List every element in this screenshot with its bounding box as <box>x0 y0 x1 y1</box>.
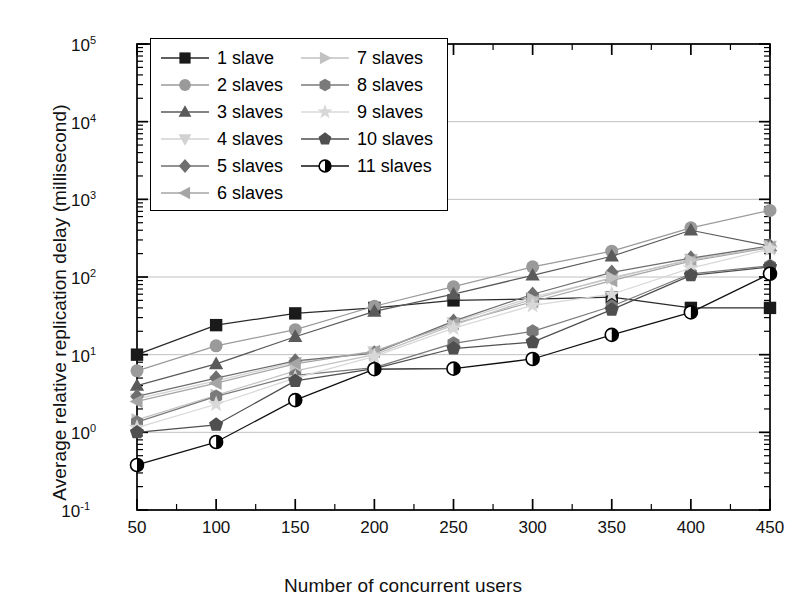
legend-marker-triangle-up-icon <box>159 101 211 123</box>
marker-square <box>179 52 190 63</box>
marker-circle-half <box>210 436 223 449</box>
legend-sample <box>159 182 211 204</box>
legend-item-2-slaves[interactable]: 2 slaves <box>159 72 283 98</box>
marker-circle-half <box>526 352 539 365</box>
marker-circle-half <box>368 363 381 376</box>
legend-item-6-slaves[interactable]: 6 slaves <box>159 180 283 206</box>
y-axis-title: Average relative replication delay (mill… <box>47 93 72 513</box>
legend-marker-triangle-right-icon <box>299 47 351 69</box>
marker-triangle-right <box>320 52 332 64</box>
legend-sample <box>159 128 211 150</box>
legend-marker-star-icon <box>299 101 351 123</box>
x-axis-title: Number of concurrent users <box>0 575 806 597</box>
marker-circle <box>763 204 776 217</box>
legend-sample <box>159 74 211 96</box>
marker-triangle-up <box>179 105 192 116</box>
legend-marker-pentagon-icon <box>299 128 351 150</box>
marker-square <box>131 348 143 360</box>
marker-hexagon <box>320 79 331 92</box>
marker-circle-half <box>130 458 143 471</box>
legend-item-9-slaves[interactable]: 9 slaves <box>299 99 423 125</box>
x-tick-label: 250 <box>424 518 484 538</box>
x-tick-label: 200 <box>344 518 404 538</box>
legend-item-3-slaves[interactable]: 3 slaves <box>159 99 283 125</box>
x-tick-label: 450 <box>740 518 800 538</box>
marker-pentagon <box>526 335 540 348</box>
x-tick-label: 100 <box>186 518 246 538</box>
legend-label: 4 slaves <box>211 129 283 150</box>
marker-star <box>318 104 333 118</box>
x-tick-label: 50 <box>107 518 167 538</box>
legend-label: 6 slaves <box>211 183 283 204</box>
legend-item-10-slaves[interactable]: 10 slaves <box>299 126 433 152</box>
legend-label: 10 slaves <box>351 129 433 150</box>
legend-marker-triangle-down-icon <box>159 128 211 150</box>
legend-sample <box>159 47 211 69</box>
marker-circle <box>130 364 143 377</box>
legend-marker-circle-half-icon <box>299 155 351 177</box>
x-tick-label: 400 <box>661 518 721 538</box>
legend-label: 11 slaves <box>351 156 432 177</box>
legend-label: 2 slaves <box>211 75 283 96</box>
marker-pentagon <box>209 417 223 430</box>
marker-triangle-left <box>178 187 190 199</box>
marker-circle <box>210 339 223 352</box>
marker-circle-half <box>447 362 460 375</box>
x-tick-label: 300 <box>503 518 563 538</box>
legend-sample <box>299 47 351 69</box>
marker-square <box>764 302 776 314</box>
marker-circle-half <box>684 306 697 319</box>
marker-circle-half <box>289 394 302 407</box>
legend-marker-circle-icon <box>159 74 211 96</box>
legend-sample <box>159 101 211 123</box>
marker-diamond <box>179 159 191 173</box>
legend-marker-triangle-left-icon <box>159 182 211 204</box>
x-tick-label: 350 <box>582 518 642 538</box>
legend-item-7-slaves[interactable]: 7 slaves <box>299 45 423 71</box>
legend-sample <box>299 101 351 123</box>
legend-marker-hexagon-icon <box>299 74 351 96</box>
legend-item-1-slave[interactable]: 1 slave <box>159 45 274 71</box>
legend-item-11-slaves[interactable]: 11 slaves <box>299 153 432 179</box>
legend-label: 3 slaves <box>211 102 283 123</box>
marker-circle-half <box>319 160 331 172</box>
marker-triangle-down <box>179 134 192 145</box>
figure-chart-replication-delay: 105 104 103 102 101 100 10-1 Number of c… <box>0 0 806 612</box>
legend-item-5-slaves[interactable]: 5 slaves <box>159 153 283 179</box>
marker-pentagon <box>319 132 332 144</box>
legend-sample <box>299 155 351 177</box>
legend: 1 slave2 slaves3 slaves4 slaves5 slaves6… <box>150 38 448 211</box>
marker-circle-half <box>605 328 618 341</box>
legend-sample <box>299 74 351 96</box>
marker-square <box>210 319 222 331</box>
legend-label: 9 slaves <box>351 102 423 123</box>
legend-marker-square-icon <box>159 47 211 69</box>
x-tick-label: 150 <box>265 518 325 538</box>
marker-circle-half <box>763 267 776 280</box>
legend-sample <box>159 155 211 177</box>
legend-label: 8 slaves <box>351 75 423 96</box>
legend-item-8-slaves[interactable]: 8 slaves <box>299 72 423 98</box>
legend-label: 5 slaves <box>211 156 283 177</box>
legend-label: 1 slave <box>211 48 274 69</box>
marker-circle <box>179 79 191 91</box>
y-tick-label: 105 <box>36 34 96 56</box>
series-7-slaves <box>131 240 777 427</box>
marker-square <box>289 307 301 319</box>
legend-label: 7 slaves <box>351 48 423 69</box>
legend-marker-diamond-icon <box>159 155 211 177</box>
legend-sample <box>299 128 351 150</box>
legend-item-4-slaves[interactable]: 4 slaves <box>159 126 283 152</box>
